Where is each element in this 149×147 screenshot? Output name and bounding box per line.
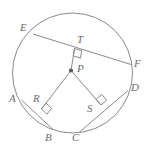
circle-outline xyxy=(13,13,133,133)
label-S: S xyxy=(87,103,93,114)
right-angle-at-r-icon xyxy=(42,103,52,114)
perpendicular-segment-group xyxy=(42,49,102,110)
label-B: B xyxy=(45,132,52,143)
label-T: T xyxy=(77,34,83,45)
right-angle-at-t-icon xyxy=(73,49,81,59)
label-D: D xyxy=(131,82,139,93)
label-A: A xyxy=(9,93,16,104)
right-angle-mark-group xyxy=(42,49,107,115)
label-P: P xyxy=(77,63,84,74)
right-angle-at-s-icon xyxy=(96,94,107,105)
geometry-figure: E T F P A R D S B C xyxy=(0,0,149,147)
label-R: R xyxy=(33,93,40,104)
label-E: E xyxy=(20,22,27,33)
label-C: C xyxy=(72,132,79,143)
chord-ab xyxy=(22,100,54,130)
center-point-dot xyxy=(69,68,73,72)
label-F: F xyxy=(134,58,141,69)
